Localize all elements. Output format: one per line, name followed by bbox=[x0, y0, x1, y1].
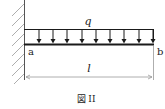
right-end-label: b bbox=[157, 46, 163, 57]
length-label: l bbox=[87, 62, 91, 75]
load-arrows bbox=[39, 30, 153, 40]
figure-caption: 図 II bbox=[77, 94, 96, 104]
distributed-load bbox=[24, 29, 156, 44]
load-label: q bbox=[84, 15, 91, 28]
cantilever-diagram: q a b l 図 II bbox=[0, 0, 165, 109]
left-end-label: a bbox=[28, 46, 34, 57]
fixed-wall-support bbox=[12, 0, 25, 84]
